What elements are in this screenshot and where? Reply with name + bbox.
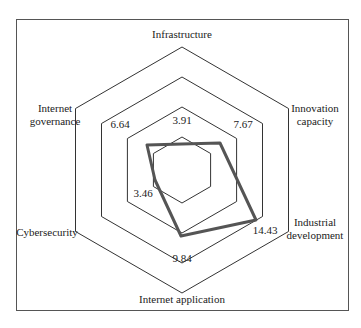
axis-label-industrial-development: Industrialdevelopment [287,216,344,241]
axis-label-cybersecurity: Cybersecurity [16,226,78,238]
chart-frame [17,20,349,311]
axis-label-innovation-capacity: Innovationcapacity [291,102,339,127]
value-label-internet-governance: 6.64 [110,118,130,130]
value-label-cybersecurity: 3.46 [133,187,153,199]
axis-label-infrastructure: Infrastructure [152,28,212,40]
value-label-internet-application: 9.84 [172,252,192,264]
value-label-industrial-development: 14.43 [253,224,278,236]
radar-chart: Infrastructure Innovationcapacity Indust… [0,0,361,328]
value-label-infrastructure: 3.91 [172,114,191,126]
value-label-innovation-capacity: 7.67 [233,118,253,130]
axis-label-internet-governance: Internetgovernance [30,102,81,127]
axis-label-internet-application: Internet application [139,293,225,305]
